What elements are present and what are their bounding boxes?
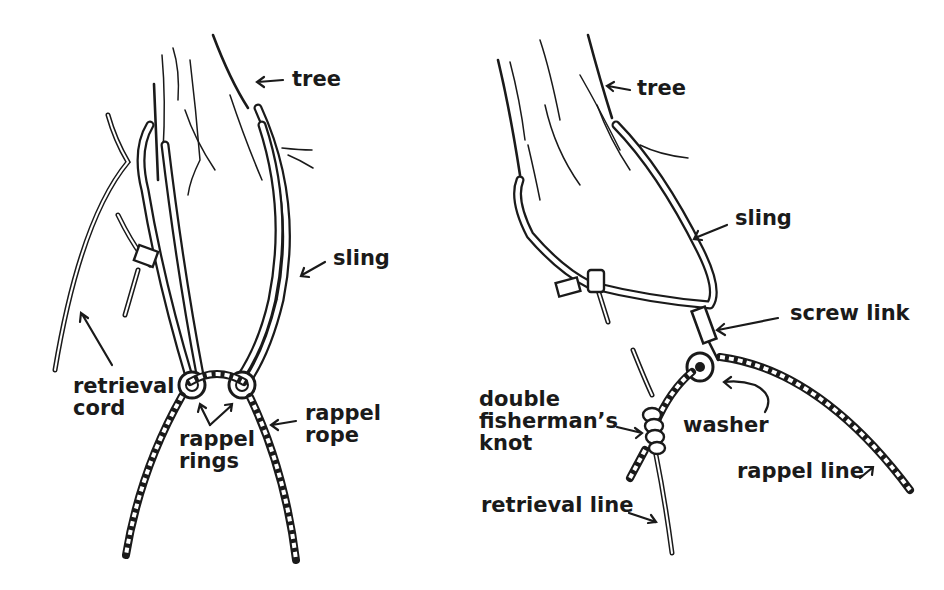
left-label-rappel-rings: rappel rings (179, 404, 255, 473)
right-screw-link (692, 307, 718, 360)
right-retrieval-line (630, 350, 692, 553)
label-retrieval-cord-line2: cord (73, 396, 125, 420)
label-washer: washer (683, 413, 769, 437)
right-label-tree: tree (607, 76, 686, 100)
left-rappel-rings (179, 372, 255, 398)
left-label-tree: tree (257, 67, 341, 91)
label-retrieval-cord-line1: retrieval (73, 374, 175, 398)
label-rappel-line: rappel line (737, 459, 864, 483)
label-screw-link: screw link (790, 301, 911, 325)
left-label-rappel-rope: rappel rope (271, 401, 381, 447)
left-label-sling: sling (301, 246, 390, 277)
right-label-retrieval-line: retrieval line (481, 493, 656, 523)
label-knot-line3: knot (479, 431, 532, 455)
label-rappel-rings-line1: rappel (179, 427, 255, 451)
right-panel: tree sling screw link washer double fish… (479, 35, 911, 553)
left-tree-illustration (154, 35, 313, 195)
left-sling (141, 108, 286, 380)
right-sling (518, 125, 714, 322)
right-label-double-fishermans-knot: double fisherman’s knot (479, 387, 642, 455)
label-rappel-rope-line1: rappel (305, 401, 381, 425)
right-label-rappel-line: rappel line (737, 459, 873, 483)
rappel-anchor-diagram: tree sling retrieval cord rappel rings r… (0, 0, 944, 590)
right-label-screw-link: screw link (717, 301, 911, 335)
label-knot-line2: fisherman’s (479, 409, 618, 433)
right-label-washer: washer (683, 377, 769, 437)
label-tree: tree (292, 67, 341, 91)
label-tree: tree (637, 76, 686, 100)
left-panel: tree sling retrieval cord rappel rings r… (55, 35, 390, 560)
label-sling: sling (333, 246, 390, 270)
label-rappel-rope-line2: rope (305, 423, 359, 447)
right-label-sling: sling (694, 206, 792, 240)
left-rappel-rope (126, 396, 296, 560)
left-label-retrieval-cord: retrieval cord (73, 313, 175, 420)
label-rappel-rings-line2: rings (179, 449, 239, 473)
label-retrieval-line: retrieval line (481, 493, 633, 517)
label-sling: sling (735, 206, 792, 230)
label-knot-line1: double (479, 387, 560, 411)
